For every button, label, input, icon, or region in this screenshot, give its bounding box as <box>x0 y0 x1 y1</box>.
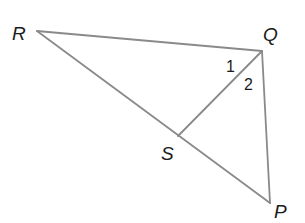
segment-QP <box>262 51 270 203</box>
segment-QS <box>178 51 262 136</box>
segment-RQ <box>37 31 262 51</box>
segment-RP <box>37 31 270 203</box>
vertex-label-Q: Q <box>263 24 278 45</box>
angle-label-1: 1 <box>226 58 235 75</box>
vertex-label-P: P <box>274 201 287 222</box>
vertex-label-S: S <box>161 143 174 164</box>
vertex-label-R: R <box>12 23 26 44</box>
triangle-diagram: R Q S P 1 2 <box>0 0 305 223</box>
angle-label-2: 2 <box>244 76 253 93</box>
